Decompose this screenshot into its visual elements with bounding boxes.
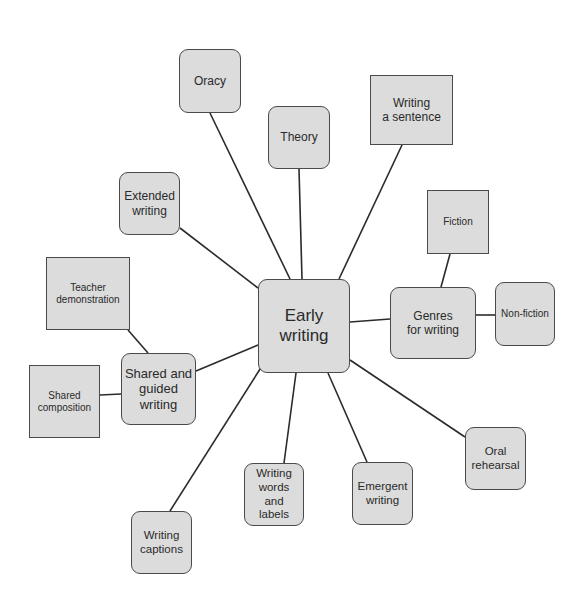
node-label: Writing captions — [140, 529, 183, 557]
node-sentence: Writing a sentence — [370, 75, 453, 145]
edge-early-extended — [180, 228, 258, 288]
node-label: Fiction — [443, 216, 472, 228]
node-oral: Oral rehearsal — [465, 427, 526, 490]
node-label: Oracy — [194, 74, 226, 88]
node-words: Writing words and labels — [244, 463, 304, 526]
node-composition: Shared composition — [29, 365, 100, 438]
node-label: Extended writing — [124, 189, 175, 218]
edge-early-emergent — [328, 373, 367, 462]
edge-early-oral — [350, 360, 465, 437]
node-label: Non-fiction — [501, 308, 549, 320]
node-label: Oral rehearsal — [472, 445, 520, 473]
node-fiction: Fiction — [427, 190, 489, 254]
node-emergent: Emergent writing — [352, 462, 413, 525]
node-label: Emergent writing — [358, 480, 408, 508]
node-captions: Writing captions — [131, 511, 192, 574]
edge-early-genres — [350, 319, 390, 322]
node-theory: Theory — [268, 106, 330, 169]
node-label: Shared and guided writing — [125, 366, 192, 413]
node-label: Early writing — [279, 306, 328, 347]
node-label: Writing a sentence — [382, 96, 441, 125]
node-label: Genres for writing — [407, 309, 459, 338]
node-label: Shared composition — [38, 390, 91, 414]
node-shared: Shared and guided writing — [121, 353, 196, 425]
node-label: Teacher demonstration — [56, 282, 119, 306]
node-nonfiction: Non-fiction — [495, 282, 555, 346]
edge-early-shared — [196, 345, 258, 371]
node-label: Writing words and labels — [256, 467, 292, 522]
node-oracy: Oracy — [179, 49, 241, 113]
node-extended: Extended writing — [119, 172, 180, 235]
edge-early-theory — [299, 169, 302, 279]
edge-shared-composition — [100, 394, 121, 395]
edge-genres-fiction — [441, 254, 450, 287]
node-label: Theory — [280, 130, 317, 144]
node-teacher: Teacher demonstration — [46, 257, 130, 330]
edge-early-words — [284, 373, 296, 463]
edge-shared-teacher — [128, 330, 148, 353]
node-genres: Genres for writing — [390, 287, 476, 359]
edge-early-sentence — [339, 145, 402, 279]
central-node: Early writing — [258, 279, 350, 373]
